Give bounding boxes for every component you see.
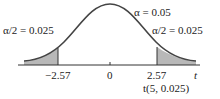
alpha-label: α = 0.05 <box>134 6 171 18</box>
right-tail-label: α/2 = 0.025 <box>152 24 203 36</box>
critical-notation-label: t(5, 0.025) <box>143 82 189 95</box>
left-tail-label: α/2 = 0.025 <box>3 24 54 36</box>
neg-critical-label: −2.57 <box>45 69 71 81</box>
t-distribution-diagram: α/2 = 0.025 α = 0.05 α/2 = 0.025 −2.57 0… <box>0 0 220 99</box>
zero-label: 0 <box>107 69 113 81</box>
axis-var-label: t <box>194 69 198 81</box>
pos-critical-label: 2.57 <box>147 69 167 81</box>
